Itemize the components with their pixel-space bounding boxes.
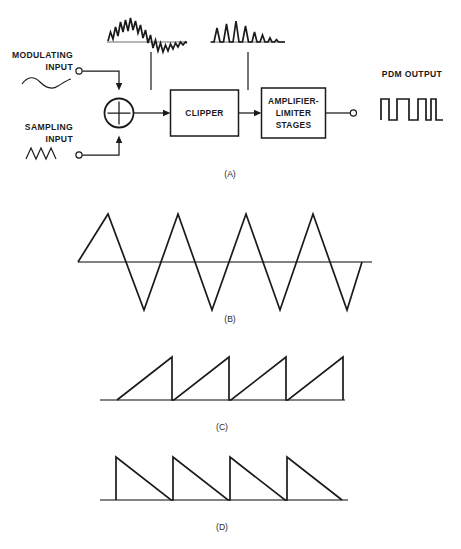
modulating-input-terminal[interactable] xyxy=(76,68,82,74)
summed-waveform xyxy=(107,18,187,52)
sampling-input-label-line1: SAMPLING xyxy=(25,122,73,132)
clipped-waveform-trace xyxy=(211,21,285,42)
panel-b-caption: (B) xyxy=(224,314,236,324)
pdm-figure-svg: MODULATING INPUT SAMPLING INPUT CLIPPER xyxy=(0,0,461,549)
modulating-input-label-line1: MODULATING xyxy=(12,50,73,60)
modulating-input-wire xyxy=(82,71,119,83)
pdm-output-terminal[interactable] xyxy=(350,110,356,116)
panel-c-sawtooth-wave xyxy=(117,357,343,400)
sine-wave-icon xyxy=(22,78,71,88)
sampling-input-arrow xyxy=(116,136,122,144)
sampling-input-terminal[interactable] xyxy=(76,152,82,158)
clipper-block-label: CLIPPER xyxy=(185,108,223,118)
triangle-wave-icon xyxy=(26,148,56,159)
pulse-train-icon xyxy=(381,99,443,120)
amplifier-limiter-label-line3: STAGES xyxy=(276,120,312,130)
modulating-input-arrow xyxy=(116,83,122,91)
panel-a-caption: (A) xyxy=(224,169,236,179)
sampling-input-wire xyxy=(82,143,119,155)
panel-a: MODULATING INPUT SAMPLING INPUT CLIPPER xyxy=(12,18,443,179)
panel-d-caption: (D) xyxy=(216,522,228,532)
figure-root: MODULATING INPUT SAMPLING INPUT CLIPPER xyxy=(0,0,461,549)
panel-b: (B) xyxy=(78,214,372,324)
amplifier-limiter-label-line1: AMPLIFIER- xyxy=(268,96,319,106)
modulating-input-label-line2: INPUT xyxy=(45,62,73,72)
clipped-waveform xyxy=(210,21,285,42)
sampling-input-label-line2: INPUT xyxy=(45,134,73,144)
summed-waveform-trace xyxy=(108,18,187,52)
amplifier-limiter-label-line2: LIMITER xyxy=(276,108,312,118)
pdm-output-label: PDM OUTPUT xyxy=(382,69,443,79)
panel-c-caption: (C) xyxy=(216,422,228,432)
clipper-input-arrow xyxy=(163,110,171,116)
amplifier-input-arrow xyxy=(254,110,262,116)
panel-c: (C) xyxy=(100,357,345,432)
panel-d: (D) xyxy=(100,457,348,532)
panel-d-sawtooth-wave xyxy=(116,457,342,500)
